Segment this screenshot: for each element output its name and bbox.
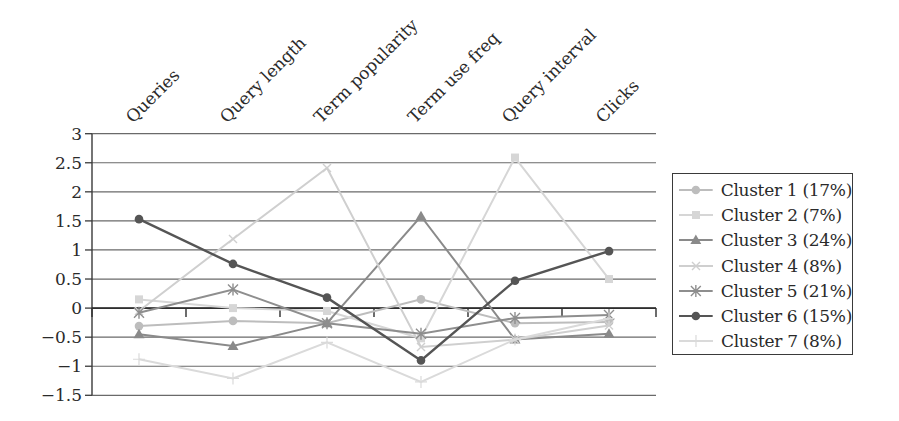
- y-tick-label: 0.5: [55, 269, 82, 289]
- data-point: [416, 211, 427, 221]
- data-point: [415, 376, 427, 388]
- series-line: [139, 168, 609, 347]
- legend-item-cluster-1: Cluster 1 (17%): [679, 177, 852, 202]
- data-point: [135, 295, 143, 303]
- data-point: [229, 260, 238, 269]
- y-tick-label: 1.5: [55, 211, 82, 231]
- data-point: [133, 353, 145, 365]
- legend-item-cluster-6: Cluster 6 (15%): [679, 303, 852, 328]
- circle-marker-icon: [679, 183, 713, 197]
- x-category-labels: QueriesQuery lengthTerm popularityTerm u…: [122, 15, 643, 127]
- x-marker-icon: [679, 259, 713, 273]
- legend-label: Cluster 2 (7%): [721, 205, 842, 225]
- data-point: [229, 235, 237, 243]
- legend-label: Cluster 3 (24%): [721, 230, 852, 250]
- legend-label: Cluster 7 (8%): [721, 331, 842, 351]
- y-tick-label: 2.5: [55, 153, 82, 173]
- data-point: [417, 295, 426, 304]
- data-point: [323, 164, 331, 172]
- data-point: [227, 372, 239, 384]
- legend-item-cluster-3: Cluster 3 (24%): [679, 228, 852, 253]
- y-tick-label: −0.5: [41, 327, 82, 347]
- series-line: [139, 216, 609, 346]
- triangle-marker-icon: [679, 233, 713, 247]
- circle-marker-icon: [679, 309, 713, 323]
- legend-label: Cluster 6 (15%): [721, 306, 852, 326]
- y-tick-label: 1: [71, 240, 82, 260]
- data-point: [323, 307, 331, 315]
- y-tick-label: 0: [71, 298, 82, 318]
- y-tick-label: −1: [57, 356, 82, 376]
- x-category-label: Term use freq: [404, 28, 503, 127]
- legend-label: Cluster 5 (21%): [721, 281, 852, 301]
- data-point: [135, 215, 144, 224]
- x-category-label: Query length: [216, 33, 310, 127]
- data-point: [605, 247, 614, 256]
- data-point: [323, 293, 332, 302]
- x-category-label: Queries: [122, 65, 184, 127]
- legend: Cluster 1 (17%) Cluster 2 (7%) Cluster 3…: [672, 173, 853, 355]
- data-point: [134, 329, 145, 339]
- legend-label: Cluster 1 (17%): [721, 180, 852, 200]
- y-axis: [85, 134, 92, 396]
- legend-item-cluster-4: Cluster 4 (8%): [679, 253, 852, 278]
- legend-item-cluster-7: Cluster 7 (8%): [679, 329, 852, 354]
- data-point: [229, 317, 238, 326]
- series-line: [139, 219, 609, 360]
- y-tick-labels: 32.521.510.50−0.5−1−1.5: [41, 124, 82, 406]
- y-tick-label: 2: [71, 182, 82, 202]
- y-tick-label: 3: [71, 124, 82, 144]
- y-tick-label: −1.5: [41, 385, 82, 405]
- plus-marker-icon: [679, 334, 713, 348]
- x-category-label: Query interval: [498, 25, 600, 127]
- square-marker-icon: [679, 208, 713, 222]
- plot-series: [133, 154, 615, 388]
- data-point: [511, 154, 519, 162]
- data-point: [605, 275, 613, 283]
- data-point: [417, 356, 426, 365]
- legend-label: Cluster 4 (8%): [721, 256, 842, 276]
- legend-item-cluster-2: Cluster 2 (7%): [679, 202, 852, 227]
- gridlines: [92, 134, 656, 396]
- data-point: [511, 276, 520, 285]
- data-point: [321, 336, 333, 348]
- star-marker-icon: [679, 284, 713, 298]
- legend-item-cluster-5: Cluster 5 (21%): [679, 278, 852, 303]
- x-category-label: Clicks: [592, 76, 643, 127]
- data-point: [229, 304, 237, 312]
